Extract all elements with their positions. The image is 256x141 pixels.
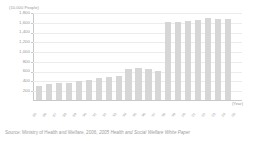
bar — [66, 83, 72, 100]
y-axis-label: 1,200 — [19, 40, 30, 44]
bar — [205, 18, 211, 100]
bar — [86, 80, 92, 100]
bar — [116, 76, 122, 100]
bar — [195, 20, 201, 100]
x-axis-label: '86 — [42, 112, 48, 118]
x-axis-label: '93 — [112, 112, 118, 118]
x-axis-label: '98 — [162, 112, 168, 118]
bar — [125, 69, 131, 100]
bar — [106, 77, 112, 100]
x-axis-label: '04 — [221, 112, 227, 118]
x-axis-label: '94 — [122, 112, 128, 118]
y-axis-tick — [31, 33, 33, 34]
bar — [36, 86, 42, 101]
bar — [135, 68, 141, 100]
x-axis-label: '85 — [32, 112, 38, 118]
bar — [165, 22, 171, 100]
y-axis-tick — [31, 81, 33, 82]
bar — [225, 19, 231, 100]
y-axis-label: 1,000 — [19, 50, 30, 54]
x-axis-label: '95 — [132, 112, 138, 118]
chart-figure: (10,000 People) 1,8001,6001,4001,2001,00… — [0, 0, 256, 141]
x-axis-label: '88 — [62, 112, 68, 118]
bar — [46, 84, 52, 100]
bar — [76, 81, 82, 100]
source-prefix: Source: Ministry of Health and Welfare, … — [5, 130, 98, 135]
y-axis-tick — [31, 23, 33, 24]
bar — [56, 83, 62, 100]
y-axis-tick — [31, 91, 33, 92]
y-axis-label: 200 — [23, 89, 30, 93]
x-axis-label: '96 — [142, 112, 148, 118]
x-axis-labels: '85'86'87'88'89'90'91'92'93'94'95'96'97'… — [33, 101, 242, 118]
plot-area — [33, 13, 242, 101]
bar — [145, 69, 151, 100]
x-axis-label: '91 — [92, 112, 98, 118]
source-title: 2005 Health and Social Welfare White Pap… — [99, 130, 190, 135]
x-axis-label: '87 — [52, 112, 58, 118]
y-axis-tick — [31, 52, 33, 53]
x-axis-label: '89 — [72, 112, 78, 118]
bar — [215, 19, 221, 100]
y-axis-tick — [31, 62, 33, 63]
y-axis-label: 1,400 — [19, 30, 30, 34]
x-axis-label: '92 — [102, 112, 108, 118]
bar — [96, 78, 102, 100]
bar-series — [34, 13, 242, 100]
y-axis-tick — [31, 13, 33, 14]
bar — [185, 21, 191, 100]
x-axis-label: '00 — [182, 112, 188, 118]
y-axis-label: 1,800 — [19, 11, 30, 15]
x-axis-label: '03 — [211, 112, 217, 118]
y-axis-label: 600 — [23, 69, 30, 73]
y-axis-label: 1,600 — [19, 21, 30, 25]
x-axis-label: '01 — [191, 112, 197, 118]
y-axis-tick — [31, 42, 33, 43]
x-axis-unit-label: (Year) — [232, 101, 243, 106]
x-axis-label: '02 — [201, 112, 207, 118]
y-axis-label: 800 — [23, 60, 30, 64]
bar — [155, 71, 161, 100]
bar — [175, 22, 181, 100]
y-axis-tick — [31, 72, 33, 73]
x-axis-label: '99 — [172, 112, 178, 118]
x-axis-label: '97 — [152, 112, 158, 118]
y-axis-label: 400 — [23, 79, 30, 83]
x-axis-label: '90 — [82, 112, 88, 118]
x-axis-label: '05 — [231, 112, 237, 118]
source-note: Source: Ministry of Health and Welfare, … — [5, 130, 190, 135]
